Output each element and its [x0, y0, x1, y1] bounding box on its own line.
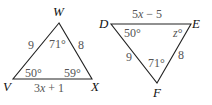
side-vx-length: 3x + 1: [34, 81, 64, 95]
triangles-diagram: W V X 9 8 3x + 1 71° 50° 59° D E F 5x − …: [0, 0, 212, 105]
vertex-v: V: [3, 79, 13, 94]
triangle-wvx: W V X 9 8 3x + 1 71° 50° 59°: [3, 4, 100, 95]
side-df-length: 9: [126, 50, 132, 64]
side-wv-length: 9: [28, 38, 34, 52]
vertex-f: F: [152, 85, 162, 100]
vertex-x: X: [90, 79, 100, 94]
angle-v: 50°: [25, 66, 42, 80]
vertex-e: E: [191, 16, 200, 31]
angle-d: 50°: [124, 26, 141, 40]
angle-x: 59°: [64, 66, 81, 80]
side-ef-length: 8: [178, 48, 184, 62]
triangle-def: D E F 5x − 5 9 8 50° z° 71°: [98, 7, 200, 100]
angle-w: 71°: [49, 37, 66, 51]
angle-f: 71°: [148, 56, 165, 70]
vertex-d: D: [98, 16, 109, 31]
side-de-length: 5x − 5: [132, 7, 162, 21]
side-wx-length: 8: [78, 38, 84, 52]
angle-e: z°: [172, 26, 183, 40]
vertex-w: W: [53, 4, 65, 19]
